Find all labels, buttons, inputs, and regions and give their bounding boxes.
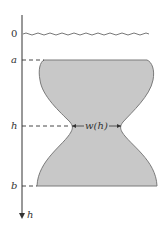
width-label: w(h) [85, 120, 108, 131]
submerged-plate-diagram: 0 a h b w(h) h [0, 0, 168, 231]
tick-label-depth: h [11, 120, 17, 131]
axis-variable-label: h [27, 209, 33, 220]
water-surface-line [23, 33, 149, 35]
tick-label-bottom: b [11, 180, 17, 191]
tick-label-surface: 0 [11, 28, 17, 39]
tick-label-top: a [11, 54, 17, 65]
